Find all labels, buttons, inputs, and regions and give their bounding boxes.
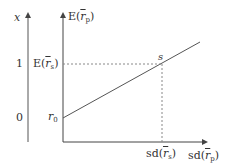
expected-return-s-label: E(rs) — [33, 58, 58, 71]
label-prefix: sd( — [146, 147, 163, 160]
label-prefix: sd( — [188, 149, 205, 162]
label-suffix: ) — [90, 10, 94, 23]
label-prefix: E( — [68, 10, 80, 23]
point-s-label: s — [158, 52, 163, 62]
label-suffix: ) — [215, 149, 219, 162]
left-axis-tick-1: 1 — [16, 58, 23, 69]
label-sub: 0 — [53, 116, 57, 124]
left-axis-tick-0: 0 — [16, 112, 23, 123]
diagram-canvas — [0, 0, 226, 167]
left-axis-label: x — [14, 12, 20, 23]
std-dev-s-label: sd(rs) — [146, 148, 176, 161]
label-prefix: E( — [33, 57, 45, 70]
allocation-line — [63, 42, 200, 118]
capital-allocation-line-diagram: x 1 0 E(rp) E(rs) r0 s sd(rs) sd(rp) — [0, 0, 226, 167]
expected-return-axis-label: E(rp) — [68, 11, 94, 24]
label-suffix: ) — [54, 57, 58, 70]
std-dev-axis-label: sd(rp) — [188, 150, 219, 163]
risk-free-intercept-label: r0 — [48, 111, 58, 124]
label-suffix: ) — [172, 147, 176, 160]
